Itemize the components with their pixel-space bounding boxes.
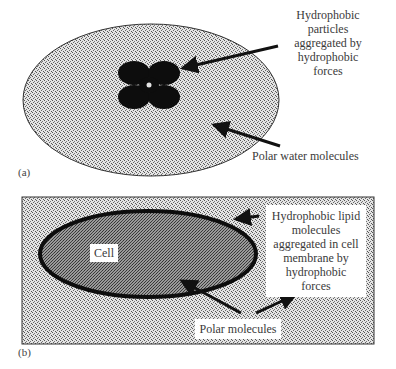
label-line: hydrophobic	[266, 265, 366, 279]
cluster-gap	[147, 83, 152, 88]
label-line: Hydrophobic	[272, 8, 384, 22]
label-line: Hydrophobic lipid	[266, 209, 366, 223]
panel-b-tag: (b)	[18, 346, 31, 358]
panel-a	[23, 24, 280, 176]
label-line: hydrophobic	[272, 50, 384, 64]
panel-a-tag: (a)	[18, 166, 30, 178]
label-hydrophobic-particles: Hydrophobic particles aggregated by hydr…	[272, 8, 384, 78]
label-line: molecules	[266, 223, 366, 237]
label-line: aggregated in cell	[266, 237, 366, 251]
label-polar-molecules: Polar molecules	[195, 319, 281, 339]
label-cell: Cell	[90, 244, 118, 262]
label-line: forces	[266, 279, 366, 293]
label-line: forces	[272, 64, 384, 78]
label-line: aggregated by	[272, 36, 384, 50]
label-hydrophobic-lipid: Hydrophobic lipid molecules aggregated i…	[266, 205, 366, 297]
label-polar-water: Polar water molecules	[252, 149, 362, 163]
cell-ellipse	[40, 211, 256, 297]
label-line: membrane by	[266, 251, 366, 265]
label-line: particles	[272, 22, 384, 36]
